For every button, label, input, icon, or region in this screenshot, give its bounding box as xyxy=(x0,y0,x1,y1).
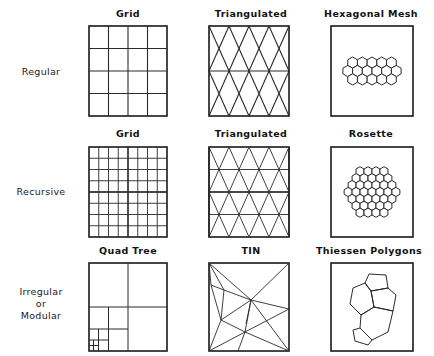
hexagon-cell xyxy=(364,208,372,217)
hexagon-cell xyxy=(348,74,358,85)
recursive-grid-svg xyxy=(88,146,168,238)
hexagon-cell xyxy=(367,74,377,85)
quad-tree-svg xyxy=(88,262,168,352)
diagram-tin xyxy=(208,262,290,352)
cell-title-triangulated-recursive: Triangulated xyxy=(196,128,306,139)
row-label-line-2: or xyxy=(4,298,78,310)
cell-title-tin: TIN xyxy=(196,245,306,256)
hexagon-cell xyxy=(357,74,367,85)
hexagonal-mesh-cells xyxy=(343,57,401,85)
hexagonal-mesh-svg xyxy=(330,25,414,117)
hexagon-cell xyxy=(387,74,397,85)
cell-title-rosette: Rosette xyxy=(312,128,430,139)
diagram-regular-grid xyxy=(88,25,168,117)
hexagon-cell xyxy=(372,208,380,217)
diagram-hexagonal-mesh xyxy=(330,25,414,117)
cell-title-hexagonal-mesh: Hexagonal Mesh xyxy=(312,8,430,19)
hexagon-cell xyxy=(356,208,364,217)
hexagon-cell xyxy=(377,74,387,85)
cell-title-grid-regular: Grid xyxy=(80,8,176,19)
tessellation-comparison-figure: Regular Recursive Irregular or Modular G… xyxy=(0,0,434,356)
row-label-line-3: Modular xyxy=(4,310,78,322)
cell-title-grid-recursive: Grid xyxy=(80,128,176,139)
diagram-quad-tree xyxy=(88,262,168,352)
row-label-regular: Regular xyxy=(4,66,78,78)
row-label-irregular-or-modular: Irregular or Modular xyxy=(4,286,78,322)
thiessen-polygons-svg xyxy=(330,262,414,352)
diagram-regular-triangulated xyxy=(208,25,290,117)
cell-title-thiessen-polygons: Thiessen Polygons xyxy=(306,245,432,256)
row-label-line-1: Irregular xyxy=(4,286,78,298)
cell-title-quad-tree: Quad Tree xyxy=(80,245,176,256)
regular-grid-svg xyxy=(88,25,168,117)
rosette-svg xyxy=(330,146,414,238)
diagram-recursive-triangulated xyxy=(208,146,290,238)
row-label-recursive: Recursive xyxy=(4,186,78,198)
cell-title-triangulated-regular: Triangulated xyxy=(196,8,306,19)
regular-triangulated-svg xyxy=(208,25,290,117)
diagram-thiessen-polygons xyxy=(330,262,414,352)
diagram-rosette xyxy=(330,146,414,238)
diagram-recursive-grid xyxy=(88,146,168,238)
hexagon-cell xyxy=(380,208,388,217)
recursive-triangulated-svg xyxy=(208,146,290,238)
tin-svg xyxy=(208,262,290,352)
